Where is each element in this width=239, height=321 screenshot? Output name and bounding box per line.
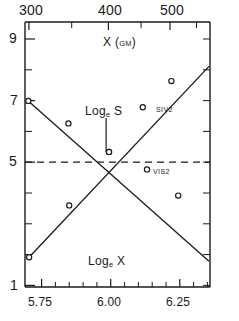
plot-canvas [0, 0, 239, 321]
data-point [66, 121, 71, 126]
annotation-main: Log [85, 104, 106, 118]
bottom-tick-label-625: 6.25 [166, 296, 190, 308]
series-label-siv2: SIV2 [156, 106, 173, 113]
top-tick-label-300: 300 [19, 3, 43, 17]
left-tick-label-9: 9 [9, 31, 17, 45]
data-point [26, 98, 31, 103]
bottom-tick-label-600: 6.00 [97, 296, 121, 308]
bottom-axis-title-main: Log [88, 254, 109, 268]
data-point [106, 149, 111, 154]
data-point [176, 193, 181, 198]
left-tick-label-7: 7 [10, 93, 18, 107]
bottom-axis-title-var: X [117, 254, 125, 268]
bottom-axis-ticks [42, 279, 208, 287]
left-tick-label-5: 5 [9, 154, 17, 168]
data-point [144, 167, 149, 172]
series-label-vis2: VIS2 [153, 168, 170, 175]
top-axis-title: X (GM) [103, 36, 136, 48]
figure-container: 300 400 500 X (GM) 9 7 5 1 5.75 6.00 6.2… [0, 0, 239, 321]
series-line-vis2 [28, 101, 209, 261]
bottom-tick-label-575: 5.75 [28, 296, 52, 308]
top-axis-title-unit: GM [119, 39, 131, 48]
data-point [27, 255, 32, 260]
axis-frame [25, 22, 210, 287]
bottom-axis-title: Loge X [88, 255, 125, 268]
data-point [67, 203, 72, 208]
top-tick-label-400: 400 [98, 3, 122, 17]
left-tick-label-1: 1 [10, 278, 18, 292]
top-axis-ticks [29, 22, 197, 30]
annotation-log-e-s: Loge S [85, 105, 122, 118]
top-axis-title-paren-close: ) [132, 35, 136, 49]
data-point [140, 105, 145, 110]
top-tick-label-500: 500 [160, 3, 184, 17]
annotation-tail: S [114, 104, 122, 118]
data-point [169, 79, 174, 84]
